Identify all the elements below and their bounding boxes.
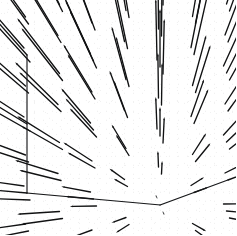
vector-arrow (156, 195, 157, 198)
vector-arrow (196, 45, 211, 92)
vector-arrow (194, 0, 209, 54)
vector-arrow (110, 71, 125, 111)
vector-arrow (22, 219, 63, 225)
vector-arrow (227, 0, 237, 4)
vector-arrow (163, 0, 165, 5)
vector-arrow (0, 187, 27, 193)
vector-arrow (227, 211, 237, 214)
vector-arrow (230, 218, 237, 224)
vector-arrow (114, 179, 128, 187)
axis-ticks (0, 3, 236, 235)
vector-arrow (163, 19, 165, 74)
vector-arrow (112, 27, 126, 80)
vector-arrow (0, 177, 24, 186)
vector-arrow (163, 212, 164, 215)
vector-arrow (70, 205, 97, 207)
vector-arrow (0, 0, 29, 24)
vector-arrow (116, 135, 129, 156)
vector-arrow (191, 177, 204, 185)
vector-arrow (0, 134, 26, 155)
vector-arrow (22, 126, 63, 149)
vector-arrow (194, 89, 208, 123)
vector-arrow (157, 0, 159, 29)
vector-arrow (155, 0, 157, 60)
vector-arrow (159, 9, 161, 67)
vector-arrow (230, 125, 237, 149)
vector-arrow (225, 62, 236, 104)
vector-arrow (157, 151, 159, 167)
axes-layer (0, 3, 236, 235)
vector-arrow (15, 0, 58, 36)
vector-arrow (159, 107, 161, 136)
vector-field-figure: 210-1-2z-2-1012y210-1-2x (0, 0, 236, 235)
vector-arrow (193, 224, 207, 232)
vector-arrow (0, 197, 30, 200)
vector-arrow (161, 161, 163, 174)
vector-arrow (68, 54, 95, 99)
vector-arrow (224, 203, 237, 205)
vector-arrow (70, 108, 97, 137)
vector-arrow (155, 97, 157, 129)
vector-arrow (163, 117, 165, 143)
vector-arrow (61, 186, 90, 192)
vector-arrow (227, 116, 237, 142)
axis-labels-layer: 210-1-2z-2-1012y210-1-2x (0, 0, 236, 235)
vector-arrow (110, 169, 125, 180)
vector-arrow (225, 0, 236, 35)
vector-arrow (112, 218, 126, 223)
vector-arrow (196, 231, 211, 236)
vector-arrow (17, 116, 59, 142)
vector-arrow (0, 231, 29, 235)
vector-arrow (66, 99, 94, 131)
vector-arrow (0, 90, 27, 124)
vector-arrow (228, 72, 236, 111)
vector-arrow (0, 0, 24, 48)
vector-arrow (228, 0, 236, 42)
vector-arrow (61, 89, 90, 123)
vector-arrow (0, 46, 29, 93)
vector-arrow (19, 170, 61, 180)
vector-arrow (17, 212, 59, 216)
y-axis-line (27, 193, 160, 205)
vector-arrow (116, 225, 129, 233)
vector-arrow (19, 72, 61, 111)
vector-arrow (63, 45, 92, 92)
vector-arrow (224, 106, 237, 135)
vector-arrow (0, 224, 26, 233)
vector-arrow (112, 125, 126, 149)
vector-arrow (63, 230, 92, 235)
vector-field-canvas: 210-1-2z-2-1012y210-1-2x (0, 0, 236, 235)
vector-arrow-layer (0, 0, 236, 235)
vector-arrow (225, 160, 236, 173)
